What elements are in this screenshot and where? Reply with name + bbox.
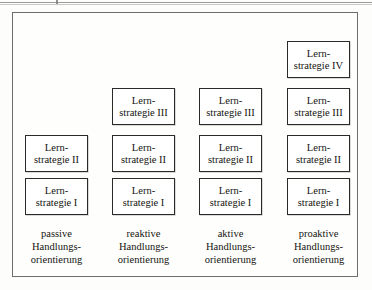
column-label-line1: reaktive <box>101 228 187 241</box>
column-label-line1: aktive <box>188 228 274 241</box>
column-label-line3: orientierung <box>101 254 187 267</box>
column-label-passive: passiveHandlungs-orientierung <box>14 228 100 266</box>
column-label-line2: Handlungs- <box>276 241 362 254</box>
column-label-line1: passive <box>14 228 100 241</box>
column-label-line3: orientierung <box>188 254 274 267</box>
column-label-line3: orientierung <box>14 254 100 267</box>
column-label-aktive: aktiveHandlungs-orientierung <box>188 228 274 266</box>
column-label-line1: proaktive <box>276 228 362 241</box>
column-label-line3: orientierung <box>276 254 362 267</box>
column-label-reaktive: reaktiveHandlungs-orientierung <box>101 228 187 266</box>
column-label-row: passiveHandlungs-orientierungreaktiveHan… <box>0 0 372 290</box>
column-label-line2: Handlungs- <box>14 241 100 254</box>
column-label-proaktive: proaktiveHandlungs-orientierung <box>276 228 362 266</box>
column-label-line2: Handlungs- <box>101 241 187 254</box>
figure-page: Lern-strategie ILern-strategie IILern-st… <box>0 0 372 290</box>
column-label-line2: Handlungs- <box>188 241 274 254</box>
